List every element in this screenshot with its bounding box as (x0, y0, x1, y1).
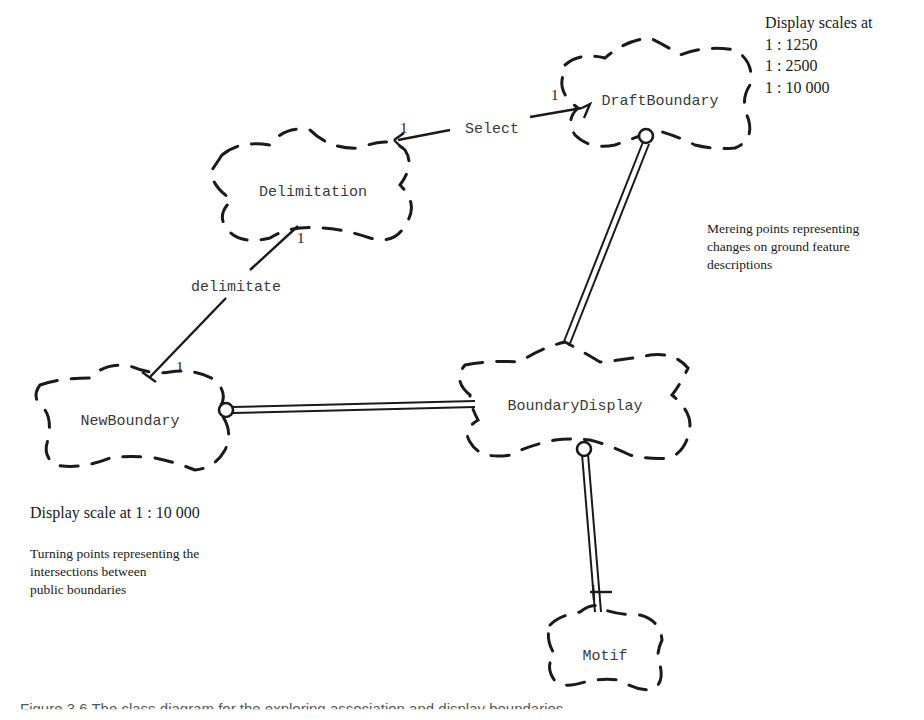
node-new-boundary[interactable]: NewBoundary (36, 365, 229, 470)
note-line: public boundaries (30, 581, 199, 599)
edge-line (569, 144, 649, 346)
scale-item: 1 : 2500 (765, 55, 873, 77)
edge-select: Select 1 1 (394, 87, 590, 148)
edge-line (588, 454, 601, 612)
node-boundary-display[interactable]: BoundaryDisplay (460, 342, 690, 459)
note-mereing: Mereing points representing changes on g… (707, 220, 859, 275)
diagram-canvas: Delimitation DraftBoundary NewBoundary B… (0, 0, 924, 720)
node-motif[interactable]: Motif (548, 605, 662, 690)
edge-draft-display (563, 129, 653, 346)
node-delimitation[interactable]: Delimitation (212, 129, 412, 240)
note-line: intersections between (30, 563, 199, 581)
multiplicity: 1 (297, 230, 305, 246)
node-draft-boundary[interactable]: DraftBoundary (562, 38, 751, 149)
edge-display-motif (577, 442, 612, 612)
scale-item: 1 : 1250 (765, 34, 873, 56)
edge-line (232, 401, 475, 407)
note-title: Display scales at (765, 12, 873, 34)
node-label: BoundaryDisplay (507, 398, 642, 415)
edge-new-display (219, 401, 475, 417)
note-line: Turning points representing the (30, 545, 199, 563)
scale-item: 1 : 10 000 (765, 77, 873, 99)
note-draft-scales: Display scales at 1 : 1250 1 : 2500 1 : … (765, 12, 873, 98)
circle-marker (639, 129, 653, 143)
multiplicity: 1 (551, 87, 559, 103)
edge-label: delimitate (191, 279, 281, 296)
node-label: Delimitation (259, 184, 367, 201)
note-line: changes on ground feature (707, 238, 859, 256)
circle-marker (219, 403, 233, 417)
note-turning: Turning points representing the intersec… (30, 545, 199, 600)
note-line: Mereing points representing (707, 220, 859, 238)
multiplicity: 1 (176, 359, 184, 375)
edge-line (563, 142, 643, 344)
node-label: DraftBoundary (601, 93, 718, 110)
edge-delimitate: delimitate 1 1 (142, 226, 305, 382)
note-new-scale: Display scale at 1 : 10 000 (30, 502, 200, 524)
edge-line (232, 407, 475, 413)
crossbar-marker (593, 585, 594, 600)
edge-label: Select (465, 121, 519, 138)
edge-line (250, 226, 298, 270)
node-label: Motif (582, 648, 627, 665)
end-marker (582, 104, 590, 118)
multiplicity: 1 (400, 120, 408, 136)
edge-line (150, 298, 226, 377)
node-label: NewBoundary (80, 413, 179, 430)
note-line: descriptions (707, 256, 859, 274)
circle-marker (577, 442, 591, 456)
